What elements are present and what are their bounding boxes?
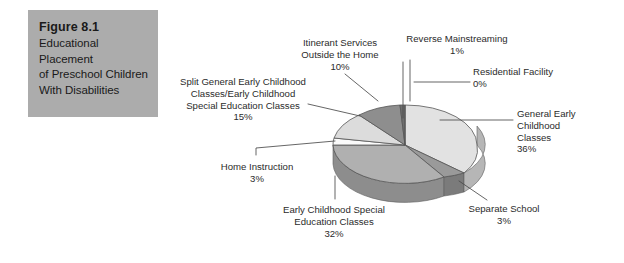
leader-line-home [256, 141, 335, 155]
label-split-line-1: Split General Early Childhood [163, 76, 323, 88]
label-home-percent: 3% [196, 173, 318, 185]
label-early-childhood-special-education-classes: Early Childhood Special Education Classe… [248, 204, 420, 239]
leader-line-itinerant [345, 74, 378, 101]
label-separate-school: Separate School 3% [448, 203, 560, 227]
label-split-line-2: Classes/Early Childhood [163, 88, 323, 100]
label-general-line-1: General Early [517, 108, 609, 120]
label-reverse-percent: 1% [390, 45, 524, 57]
figure-page: Figure 8.1 Educational Placement of Pres… [0, 0, 624, 263]
label-split-percent: 15% [163, 111, 323, 123]
label-residential-facility: Residential Facility 0% [473, 66, 603, 90]
label-split-line-3: Special Education Classes [163, 100, 323, 112]
label-itinerant-services: Itinerant Services Outside the Home 10% [279, 37, 401, 72]
label-itinerant-line-2: Outside the Home [279, 49, 401, 61]
label-separate-line-1: Separate School [448, 203, 560, 215]
pie-top-face [333, 105, 477, 183]
label-reverse-line-1: Reverse Mainstreaming [390, 33, 524, 45]
label-residential-percent: 0% [473, 78, 603, 90]
label-itinerant-percent: 10% [279, 61, 401, 73]
label-general-line-2: Childhood [517, 120, 609, 132]
label-general-line-3: Classes [517, 132, 609, 144]
label-ecse-line-2: Education Classes [248, 216, 420, 228]
label-itinerant-line-1: Itinerant Services [279, 37, 401, 49]
label-general-early-childhood-classes: General Early Childhood Classes 36% [517, 108, 609, 155]
label-split-general-early-childhood-classes: Split General Early Childhood Classes/Ea… [163, 76, 323, 123]
label-reverse-mainstreaming: Reverse Mainstreaming 1% [390, 33, 524, 57]
label-general-percent: 36% [517, 143, 609, 155]
label-residential-line-1: Residential Facility [473, 66, 603, 78]
label-ecse-percent: 32% [248, 228, 420, 240]
label-separate-percent: 3% [448, 215, 560, 227]
pie-chart: Itinerant Services Outside the Home 10% … [0, 0, 624, 263]
label-ecse-line-1: Early Childhood Special [248, 204, 420, 216]
label-home-line-1: Home Instruction [196, 161, 318, 173]
label-home-instruction: Home Instruction 3% [196, 161, 318, 185]
